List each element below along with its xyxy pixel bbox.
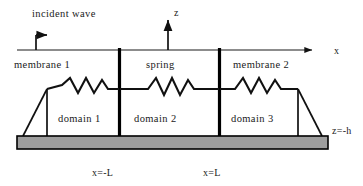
x-minus-L-label: x=-L <box>92 167 113 178</box>
left-slope-edge <box>23 89 47 136</box>
spring-label: spring <box>146 59 175 70</box>
domain-3-label: domain 3 <box>231 113 274 124</box>
right-slope-edge <box>298 89 322 136</box>
schematic-diagram: incident wave x z membrane 1 spring memb… <box>0 0 363 186</box>
incident-wave-arrow-icon <box>36 35 47 50</box>
domain-1-label: domain 1 <box>58 113 101 124</box>
x-axis-label: x <box>334 45 339 56</box>
seabed-base <box>17 136 328 149</box>
x-plus-L-label: x=L <box>203 167 221 178</box>
membrane-1-label: membrane 1 <box>14 59 70 70</box>
schematic-svg: incident wave x z membrane 1 spring memb… <box>0 0 363 186</box>
membrane-2-zigzag <box>220 78 298 93</box>
incident-wave-label: incident wave <box>32 8 96 19</box>
membrane-1-zigzag <box>47 78 119 93</box>
domain-2-label: domain 2 <box>134 113 177 124</box>
z-axis-label: z <box>174 7 179 18</box>
membrane-2-label: membrane 2 <box>233 59 289 70</box>
spring-zigzag <box>120 78 219 95</box>
z-equals-minus-h-label: z=-h <box>332 125 352 136</box>
